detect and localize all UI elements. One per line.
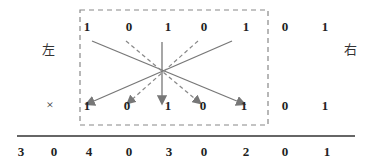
bottom-digit: 1: [241, 99, 248, 112]
top-digit: 1: [322, 20, 329, 33]
dashed-arrow-right: [126, 41, 200, 103]
top-digit: 1: [243, 20, 250, 33]
result-digit: 0: [51, 145, 58, 158]
solid-arrow-right: [92, 41, 244, 104]
result-digit: 0: [201, 145, 208, 158]
bottom-digit: 1: [84, 99, 91, 112]
result-digit: 2: [243, 145, 250, 158]
dashed-arrow-left: [128, 41, 198, 103]
result-digit: 0: [126, 145, 133, 158]
bottom-digit: 1: [322, 99, 329, 112]
top-digit: 0: [126, 20, 133, 33]
diagram-canvas: [0, 0, 376, 166]
label-left: 左: [42, 43, 55, 56]
solid-arrow-left: [87, 41, 232, 104]
result-digit: 4: [86, 145, 93, 158]
result-digit: 3: [18, 145, 25, 158]
multiply-sign: ×: [46, 98, 53, 111]
label-right: 右: [344, 43, 357, 56]
top-digit: 0: [282, 20, 289, 33]
top-digit: 1: [84, 20, 91, 33]
result-digit: 1: [324, 145, 331, 158]
bottom-digit: 0: [282, 99, 289, 112]
top-digit: 0: [201, 20, 208, 33]
result-digit: 0: [282, 145, 289, 158]
bottom-digit: 0: [200, 99, 207, 112]
bottom-digit: 0: [124, 99, 131, 112]
bottom-digit: 1: [165, 99, 172, 112]
top-digit: 1: [165, 20, 172, 33]
result-digit: 3: [166, 145, 173, 158]
